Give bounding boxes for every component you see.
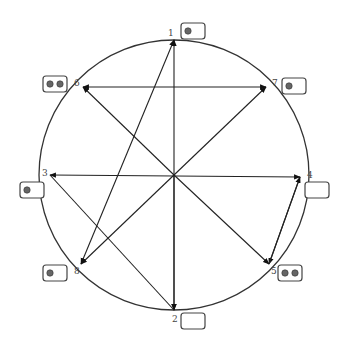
node-6: 6 <box>43 76 80 92</box>
token-dot-icon <box>57 81 63 87</box>
token-dot-icon <box>47 270 53 276</box>
node-label: 1 <box>168 28 174 38</box>
node-label: 5 <box>271 266 277 276</box>
node-label: 8 <box>74 266 80 276</box>
edge-center-5 <box>174 175 269 264</box>
token-dot-icon <box>286 83 292 89</box>
edge-center-8 <box>81 175 174 264</box>
node-4: 4 <box>305 170 329 198</box>
edge-3-2 <box>50 175 174 310</box>
node-7: 7 <box>272 78 306 94</box>
node-label: 3 <box>42 168 48 178</box>
node-label: 7 <box>272 78 278 88</box>
edge-5-4 <box>269 177 300 264</box>
node-8: 8 <box>43 265 80 281</box>
circle-diagram: 12345678 <box>0 0 351 355</box>
node-2: 2 <box>172 313 205 329</box>
token-dot-icon <box>47 81 53 87</box>
node-1: 1 <box>168 23 205 39</box>
node-label: 4 <box>307 170 313 180</box>
edges-group <box>50 40 300 310</box>
node-label: 2 <box>172 314 178 324</box>
token-box <box>181 313 205 329</box>
token-dot-icon <box>292 270 298 276</box>
token-dot-icon <box>185 28 191 34</box>
node-label: 6 <box>74 78 80 88</box>
edge-center-6 <box>83 87 174 175</box>
token-dot-icon <box>24 187 30 193</box>
edge-center-7 <box>174 87 266 175</box>
edge-8-1 <box>81 40 174 264</box>
node-3: 3 <box>20 168 48 198</box>
node-5: 5 <box>271 265 302 281</box>
token-box <box>305 182 329 198</box>
token-dot-icon <box>282 270 288 276</box>
